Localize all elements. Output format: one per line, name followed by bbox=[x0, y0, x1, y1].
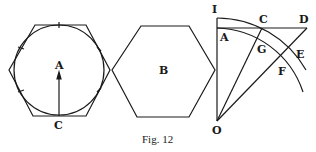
label-o: O bbox=[212, 124, 222, 137]
label-c-right: C bbox=[259, 13, 268, 26]
label-g: G bbox=[257, 43, 266, 56]
label-e: E bbox=[296, 48, 304, 61]
figure-canvas: A C B I A C D G E F O Fig. 12 bbox=[0, 0, 316, 152]
label-a-left: A bbox=[54, 59, 64, 72]
label-c-left: C bbox=[54, 119, 63, 132]
label-i: I bbox=[212, 3, 217, 16]
arrowhead-icon bbox=[57, 72, 61, 79]
label-b: B bbox=[159, 64, 168, 77]
label-f: F bbox=[278, 65, 286, 78]
label-d: D bbox=[299, 13, 309, 26]
geometry-diagram: A C B I A C D G E F O Fig. 12 bbox=[0, 0, 316, 152]
figure-caption: Fig. 12 bbox=[142, 133, 173, 145]
line-od bbox=[217, 28, 307, 121]
label-a-right: A bbox=[219, 31, 229, 44]
inner-arc bbox=[217, 28, 303, 92]
